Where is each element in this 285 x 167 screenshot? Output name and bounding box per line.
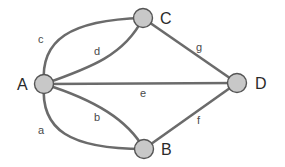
edge-f bbox=[144, 83, 237, 149]
node-label-d: D bbox=[255, 75, 267, 92]
edge-label-g: g bbox=[196, 41, 202, 53]
node-a bbox=[35, 75, 54, 94]
edge-label-e: e bbox=[140, 87, 146, 99]
node-d bbox=[228, 74, 247, 93]
edge-label-f: f bbox=[197, 114, 201, 126]
edge-e bbox=[44, 83, 237, 84]
node-label-a: A bbox=[17, 76, 28, 93]
node-b bbox=[135, 140, 154, 159]
node-c bbox=[134, 9, 153, 28]
graph-diagram: c d e g b a f A C D B bbox=[0, 0, 285, 167]
node-label-c: C bbox=[160, 10, 172, 27]
edge-label-a: a bbox=[38, 124, 45, 136]
node-label-b: B bbox=[161, 141, 172, 158]
edge-label-b: b bbox=[94, 111, 100, 123]
edge-label-d: d bbox=[94, 45, 100, 57]
edge-g bbox=[143, 18, 237, 83]
edge-label-c: c bbox=[38, 33, 44, 45]
